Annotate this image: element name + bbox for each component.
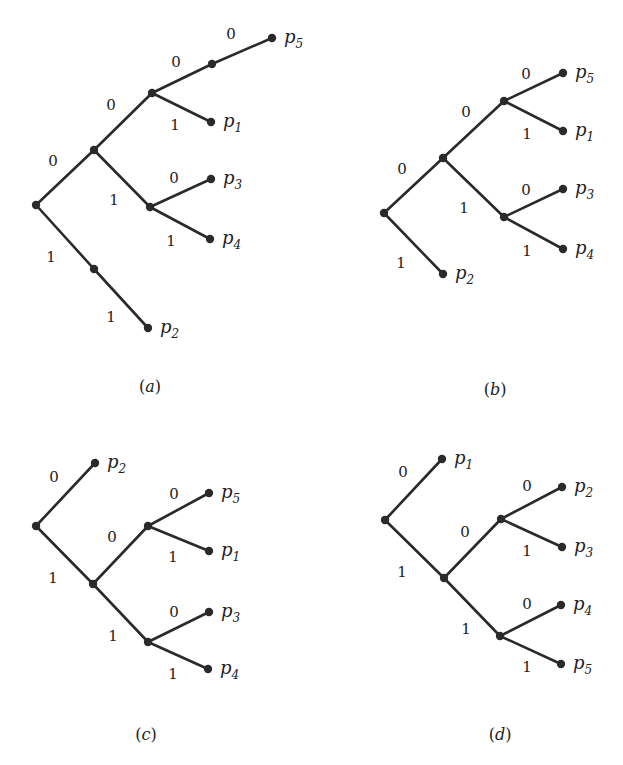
internal-node: [32, 201, 40, 209]
leaf-label: p2: [107, 451, 126, 476]
edge-bit-label: 1: [522, 658, 532, 676]
leaf-node: [559, 185, 567, 193]
tree-edge: [152, 93, 211, 122]
edge-bit-label: 0: [169, 603, 179, 621]
edge-bit-label: 1: [522, 242, 532, 260]
edge-bit-label: 1: [170, 116, 180, 134]
edge-bit-label: 0: [522, 477, 532, 495]
internal-node: [500, 97, 508, 105]
edge-bit-label: 1: [106, 308, 116, 326]
leaf-label: p2: [455, 262, 474, 287]
trees-layer: 0000110111p5p1p3p4p2(a)00011011p5p1p3p4p…: [32, 25, 595, 744]
leaf-label: p3: [575, 177, 595, 202]
leaf-label: p3: [223, 167, 243, 192]
edge-bit-label: 0: [107, 528, 117, 546]
tree-edge: [36, 205, 94, 269]
edge-bit-label: 0: [461, 103, 471, 121]
leaf-node: [558, 543, 566, 551]
edge-bit-label: 0: [521, 65, 531, 83]
tree-b: 00011011p5p1p3p4p2(b): [380, 61, 595, 399]
tree-edge: [443, 158, 504, 217]
internal-node: [90, 146, 98, 154]
tree-caption: (d): [489, 725, 512, 744]
leaf-node: [438, 455, 446, 463]
internal-node: [146, 203, 154, 211]
leaf-node: [205, 489, 213, 497]
edge-bit-label: 1: [168, 665, 178, 683]
edge-bit-label: 0: [521, 181, 531, 199]
tree-edge: [384, 213, 443, 274]
edge-bit-label: 1: [108, 627, 118, 645]
edge-bit-label: 0: [398, 463, 408, 481]
internal-node: [32, 522, 40, 530]
edge-bit-label: 0: [48, 152, 58, 170]
edge-bit-label: 0: [171, 53, 181, 71]
tree-edge: [504, 101, 563, 131]
leaf-label: p5: [221, 481, 240, 506]
leaf-label: p1: [223, 110, 242, 135]
tree-edge: [504, 217, 563, 249]
leaf-label: p3: [221, 600, 241, 625]
edge-bit-label: 1: [109, 191, 119, 209]
edge-bit-label: 0: [397, 160, 407, 178]
tree-edge: [150, 179, 211, 207]
tree-caption: (a): [139, 377, 161, 396]
leaf-node: [206, 235, 214, 243]
tree-edge: [384, 158, 443, 213]
internal-node: [439, 154, 447, 162]
leaf-node: [205, 547, 213, 555]
leaf-node: [559, 69, 567, 77]
edge-bit-label: 1: [522, 125, 532, 143]
tree-edge: [385, 459, 442, 520]
internal-node: [90, 265, 98, 273]
leaf-node: [204, 665, 212, 673]
internal-node: [440, 574, 448, 582]
tree-edge: [443, 101, 504, 158]
leaf-node: [557, 601, 565, 609]
leaf-node: [91, 459, 99, 467]
internal-node: [144, 638, 152, 646]
tree-caption: (c): [135, 725, 156, 744]
tree-edge: [150, 207, 210, 239]
leaf-label: p5: [575, 61, 594, 86]
leaf-node: [439, 270, 447, 278]
edge-bit-label: 0: [106, 96, 116, 114]
internal-node: [208, 60, 216, 68]
leaf-label: p1: [454, 447, 473, 472]
edge-bit-label: 0: [169, 485, 179, 503]
internal-node: [89, 580, 97, 588]
tree-edge: [36, 463, 95, 526]
edge-bit-label: 1: [48, 569, 58, 587]
edge-bit-label: 1: [168, 548, 178, 566]
tree-edge: [148, 642, 208, 669]
edge-bit-label: 0: [226, 25, 236, 43]
tree-edge: [385, 520, 444, 578]
leaf-label: p1: [575, 119, 594, 144]
internal-node: [500, 213, 508, 221]
tree-edge: [504, 189, 563, 217]
tree-edge: [148, 526, 209, 551]
tree-edge: [212, 38, 272, 64]
edge-bit-label: 0: [522, 595, 532, 613]
edge-bit-label: 1: [397, 563, 407, 581]
leaf-node: [558, 483, 566, 491]
internal-node: [380, 209, 388, 217]
edge-bit-label: 0: [169, 169, 179, 187]
internal-node: [148, 89, 156, 97]
leaf-label: p4: [573, 593, 592, 618]
internal-node: [381, 516, 389, 524]
tree-edge: [444, 519, 501, 578]
leaf-label: p2: [160, 316, 179, 341]
leaf-node: [557, 660, 565, 668]
edge-bit-label: 1: [459, 199, 469, 217]
leaf-node: [207, 175, 215, 183]
leaf-node: [268, 34, 276, 42]
tree-edge: [504, 73, 563, 101]
tree-a: 0000110111p5p1p3p4p2(a): [32, 25, 303, 396]
edge-bit-label: 1: [396, 254, 406, 272]
edge-bit-label: 0: [49, 468, 59, 486]
leaf-node: [559, 245, 567, 253]
leaf-label: p4: [220, 657, 239, 682]
tree-edge: [93, 584, 148, 642]
tree-edge: [93, 526, 148, 584]
